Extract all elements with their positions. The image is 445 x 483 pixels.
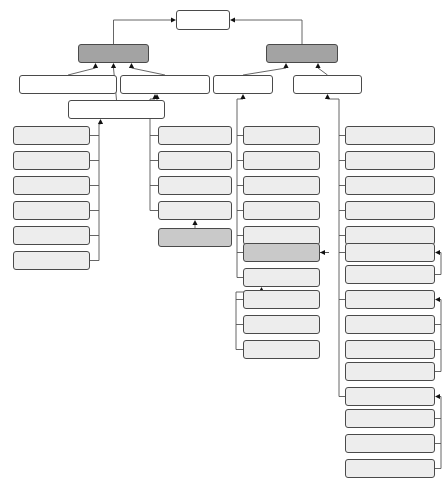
node-object_invalid_at_class[interactable]: [158, 151, 232, 170]
node-data_invalid_at_datatype[interactable]: [158, 201, 232, 220]
node-domain_not_subsumed[interactable]: [345, 340, 435, 359]
node-no_property_domain[interactable]: [13, 126, 90, 145]
node-orphan_class[interactable]: [243, 268, 320, 287]
node-local_orphan_property[interactable]: [13, 226, 90, 245]
node-instance_property_violation[interactable]: [68, 100, 165, 119]
node-not_intersection_of_class[interactable]: [243, 290, 320, 309]
node-not_inverse_functional_property[interactable]: [13, 251, 90, 270]
node-not_unique_class_name[interactable]: [243, 151, 320, 170]
node-property_domain[interactable]: [345, 290, 435, 309]
node-class_violaion[interactable]: [213, 75, 273, 94]
node-schema_blank_node[interactable]: [345, 176, 435, 195]
node-not_union_of_class[interactable]: [243, 340, 320, 359]
node-schema_violation[interactable]: [266, 44, 338, 63]
node-instance_blank_node_violation[interactable]: [19, 75, 117, 94]
node-range_not_subsumed[interactable]: [345, 434, 435, 453]
node-not_explicit_range[interactable]: [345, 459, 435, 478]
node-edge_orphan_instance[interactable]: [158, 176, 232, 195]
node-not_subproperty_of_property[interactable]: [345, 265, 435, 284]
class-hierarchy-diagram: [0, 0, 445, 483]
node-property_range[interactable]: [345, 387, 435, 406]
node-invalid_edge[interactable]: [13, 176, 90, 195]
node-property_cycle[interactable]: [345, 126, 435, 145]
node-invalid_range[interactable]: [345, 409, 435, 428]
node-not_domain_class[interactable]: [243, 176, 320, 195]
node-class_cycle[interactable]: [243, 201, 320, 220]
node-no_explicit_domain[interactable]: [345, 362, 435, 381]
node-property_violation[interactable]: [293, 75, 362, 94]
node-not_unique_property_name[interactable]: [345, 151, 435, 170]
node-instance_violation[interactable]: [78, 44, 149, 63]
node-not_an_element_violation[interactable]: [120, 75, 210, 94]
node-property_type_overload[interactable]: [345, 201, 435, 220]
node-not_subclass_of_class[interactable]: [243, 315, 320, 334]
node-violation[interactable]: [176, 10, 230, 30]
node-not_super_class_of_class[interactable]: [243, 243, 320, 262]
node-invalid_domain[interactable]: [345, 315, 435, 334]
node-not_base_type_element[interactable]: [158, 228, 232, 247]
node-no_property_range[interactable]: [13, 151, 90, 170]
node-not_functional_property[interactable]: [13, 201, 90, 220]
node-not_restriction_element[interactable]: [158, 126, 232, 145]
node-not_unique_class_label[interactable]: [243, 126, 320, 145]
node-orphan_property[interactable]: [345, 243, 435, 262]
